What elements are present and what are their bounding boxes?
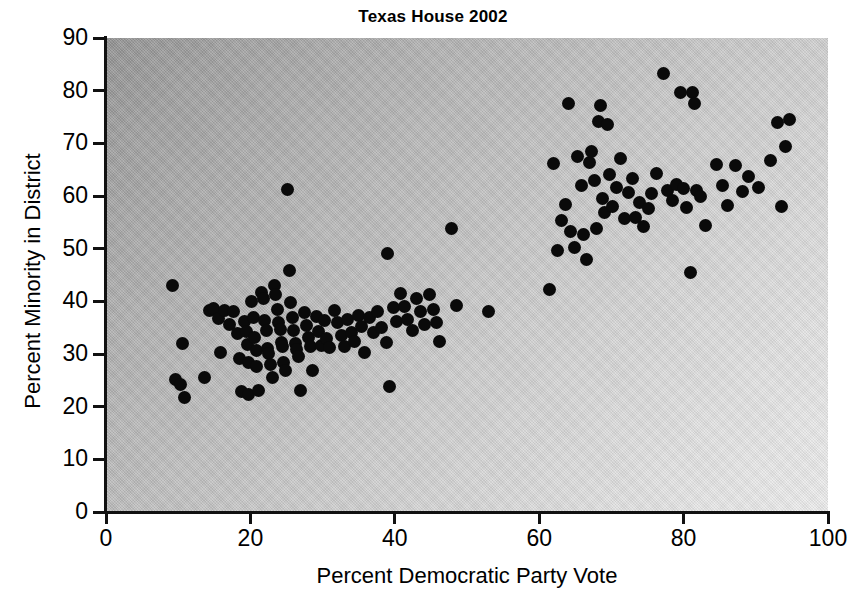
data-point (710, 158, 723, 171)
data-point (694, 190, 707, 203)
data-point (430, 316, 443, 329)
data-point (610, 181, 623, 194)
data-point (622, 186, 635, 199)
data-point (666, 194, 679, 207)
data-point (783, 113, 796, 126)
x-tick-20 (249, 511, 252, 524)
data-point (406, 324, 419, 337)
data-point (779, 140, 792, 153)
data-point (328, 304, 341, 317)
data-point (601, 118, 614, 131)
y-axis-label-container: Percent Minority in District (20, 1, 46, 561)
data-point (292, 350, 305, 363)
data-point (276, 340, 289, 353)
y-tick-30 (93, 353, 106, 356)
data-point (383, 380, 396, 393)
data-point (699, 219, 712, 232)
data-point (274, 323, 287, 336)
data-point (381, 247, 394, 260)
data-point (166, 279, 179, 292)
y-tick-40 (93, 300, 106, 303)
data-point (306, 364, 319, 377)
data-point (680, 201, 693, 214)
data-point (371, 305, 384, 318)
x-tick-80 (682, 511, 685, 524)
data-point (577, 228, 590, 241)
x-tick-100 (827, 511, 830, 524)
data-point (736, 185, 749, 198)
data-point (657, 67, 670, 80)
data-point (284, 296, 297, 309)
data-point (585, 145, 598, 158)
data-point (721, 199, 734, 212)
x-tick-0 (105, 511, 108, 524)
data-point (427, 303, 440, 316)
data-point (266, 371, 279, 384)
data-point (279, 364, 292, 377)
data-point (688, 97, 701, 110)
data-point (433, 335, 446, 348)
data-point (269, 288, 282, 301)
data-point (198, 371, 211, 384)
data-point (590, 222, 603, 235)
data-point (252, 384, 265, 397)
data-point (568, 241, 581, 254)
data-point (298, 306, 311, 319)
data-point (375, 321, 388, 334)
data-point (414, 305, 427, 318)
data-point (214, 346, 227, 359)
data-point (174, 378, 187, 391)
data-point (445, 222, 458, 235)
x-tick-label-100: 100 (788, 527, 866, 550)
data-point (394, 287, 407, 300)
x-axis-label: Percent Democratic Party Vote (106, 563, 828, 589)
data-point (642, 202, 655, 215)
data-point (614, 152, 627, 165)
data-point (176, 337, 189, 350)
y-tick-70 (93, 142, 106, 145)
data-point (410, 292, 423, 305)
data-point (178, 391, 191, 404)
data-point (482, 305, 495, 318)
data-point (264, 358, 277, 371)
data-point (283, 264, 296, 277)
x-tick-40 (393, 511, 396, 524)
data-point (398, 300, 411, 313)
data-point (555, 214, 568, 227)
data-point (380, 336, 393, 349)
data-point (257, 292, 270, 305)
y-tick-80 (93, 89, 106, 92)
x-tick-label-40: 40 (355, 527, 435, 550)
data-point (594, 99, 607, 112)
y-axis-line (104, 36, 107, 514)
data-point (562, 97, 575, 110)
data-point (294, 384, 307, 397)
data-point (764, 154, 777, 167)
chart-title: Texas House 2002 (0, 7, 866, 27)
data-point (323, 341, 336, 354)
data-point (729, 159, 742, 172)
data-point (775, 200, 788, 213)
data-point (742, 170, 755, 183)
x-tick-label-0: 0 (66, 527, 146, 550)
plot-area (106, 38, 828, 512)
x-axis-line (104, 511, 830, 514)
y-tick-60 (93, 195, 106, 198)
data-point (684, 266, 697, 279)
plot-background-texture (106, 38, 828, 512)
data-point (287, 324, 300, 337)
data-point (564, 225, 577, 238)
data-point (583, 156, 596, 169)
y-tick-90 (93, 37, 106, 40)
data-point (559, 198, 572, 211)
data-point (547, 157, 560, 170)
y-tick-10 (93, 458, 106, 461)
data-point (606, 200, 619, 213)
data-point (358, 346, 371, 359)
y-axis-label: Percent Minority in District (20, 153, 45, 409)
data-point (227, 305, 240, 318)
data-point (580, 253, 593, 266)
y-tick-50 (93, 247, 106, 250)
data-point (626, 172, 639, 185)
data-point (348, 335, 361, 348)
